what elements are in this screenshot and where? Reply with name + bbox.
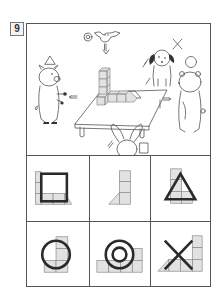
option-figure [151, 156, 210, 221]
question-number: 9 [10, 22, 24, 36]
answer-grid: □ △ [27, 155, 210, 286]
rabbit-observer [108, 124, 148, 155]
pig-observer [35, 56, 77, 124]
scene-illustration [27, 24, 210, 155]
bear-observer [163, 57, 205, 133]
answer-option-triangle[interactable]: △ [150, 155, 210, 221]
answer-option-double-circle[interactable]: ◎ [89, 221, 150, 286]
option-figure [90, 156, 150, 221]
answer-option-blank[interactable] [89, 155, 150, 221]
double-circle-inner [113, 248, 127, 262]
option-figure [90, 222, 150, 286]
option-figure [27, 222, 89, 286]
bird-observer [84, 32, 120, 55]
answer-option-circle[interactable]: ○ [27, 221, 89, 286]
dog-observer [143, 39, 182, 86]
answer-option-square[interactable]: □ [27, 155, 89, 221]
option-figure [151, 222, 210, 286]
answer-option-cross[interactable]: × [150, 221, 210, 286]
question-frame: □ △ [26, 23, 211, 287]
option-figure [27, 156, 89, 221]
